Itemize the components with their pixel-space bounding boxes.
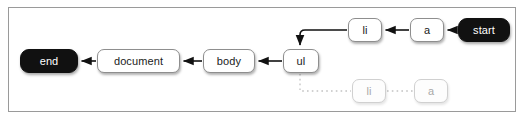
node-ul-label: ul: [297, 56, 306, 67]
node-end-label: end: [40, 56, 59, 67]
edge-layer: [0, 0, 526, 124]
node-li-bottom-label: li: [366, 86, 371, 97]
node-a-bottom-label: a: [428, 86, 434, 97]
node-li-top[interactable]: li: [348, 18, 382, 42]
node-start[interactable]: start: [458, 18, 510, 42]
node-body-label: body: [217, 56, 241, 67]
node-li-top-label: li: [362, 25, 367, 36]
diagram-canvas: end document body ul li a start li a: [0, 0, 526, 124]
edge-li-to-ul: [300, 30, 347, 45]
node-document-label: document: [114, 56, 163, 67]
node-a-top-label: a: [424, 25, 430, 36]
node-end[interactable]: end: [20, 49, 78, 73]
node-li-bottom[interactable]: li: [352, 79, 386, 103]
node-a-top[interactable]: a: [410, 18, 444, 42]
edge-ul-to-li-faded: [300, 74, 351, 91]
node-document[interactable]: document: [97, 49, 180, 73]
node-a-bottom[interactable]: a: [414, 79, 448, 103]
node-ul[interactable]: ul: [283, 49, 319, 73]
node-start-label: start: [473, 25, 495, 36]
node-body[interactable]: body: [203, 49, 255, 73]
